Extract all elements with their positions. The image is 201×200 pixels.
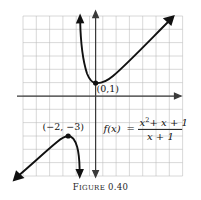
function-graph: (0,1) (−2, −3) f(x) = x 2 + x + 1 x + 1 [0, 0, 201, 182]
caption-smallcaps: IGURE [79, 184, 105, 192]
point-local-maximum [66, 133, 71, 138]
numerator-rest: + x + 1 [150, 117, 188, 128]
label-local-maximum: (−2, −3) [43, 121, 84, 132]
function-formula: f(x) = x 2 + x + 1 x + 1 [103, 116, 188, 142]
curve-left-branch [14, 136, 83, 180]
formula-numerator: x 2 + x + 1 [140, 116, 188, 128]
caption-number: 0.40 [108, 182, 128, 192]
formula-lhs: f(x) [103, 123, 121, 134]
formula-equals: = [127, 123, 135, 134]
curve-right-branch [77, 16, 173, 83]
label-local-minimum: (0,1) [97, 83, 120, 94]
figure-container: (0,1) (−2, −3) f(x) = x 2 + x + 1 x + 1 … [0, 0, 201, 200]
figure-caption: FIGURE 0.40 [0, 182, 201, 192]
formula-denominator: x + 1 [147, 131, 174, 142]
